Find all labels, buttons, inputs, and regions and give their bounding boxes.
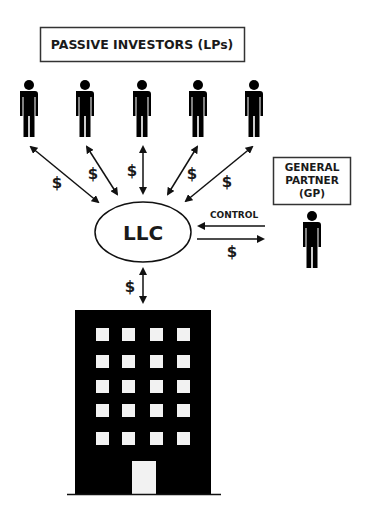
person-icon: [189, 80, 207, 137]
control-label: CONTROL: [210, 210, 259, 220]
gp-label-line: (GP): [299, 187, 325, 199]
llc-structure-diagram: PASSIVE INVESTORS (LPs) $ $ $ $ $ LLC GE…: [0, 0, 370, 517]
dollar-label: $: [227, 243, 237, 261]
lp-label-box: PASSIVE INVESTORS (LPs): [41, 28, 245, 62]
llc-entity: LLC: [95, 202, 191, 262]
investor-row: [20, 80, 263, 137]
dollar-label: $: [52, 174, 62, 192]
gp-label-box: GENERAL PARTNER (GP): [274, 158, 351, 205]
lp-money-arrows: [31, 147, 252, 202]
dollar-label: $: [127, 162, 137, 180]
llc-label: LLC: [123, 221, 163, 245]
dollar-label: $: [88, 165, 98, 183]
dollar-label: $: [222, 173, 232, 191]
gp-flows: CONTROL $: [197, 210, 265, 261]
person-icon: [133, 80, 151, 137]
gp-label-line: GENERAL: [285, 161, 340, 173]
lp-money-labels: $ $ $ $ $: [52, 162, 232, 192]
person-icon: [76, 80, 94, 137]
gp-person-icon: [303, 211, 321, 268]
building-door: [132, 461, 156, 494]
dollar-label: $: [125, 278, 135, 296]
person-icon: [245, 80, 263, 137]
building-icon: [67, 310, 221, 495]
property-flow: $: [125, 269, 143, 302]
dollar-label: $: [187, 165, 197, 183]
lp-label: PASSIVE INVESTORS (LPs): [51, 37, 234, 52]
gp-label-line: PARTNER: [285, 174, 339, 186]
person-icon: [20, 80, 38, 137]
